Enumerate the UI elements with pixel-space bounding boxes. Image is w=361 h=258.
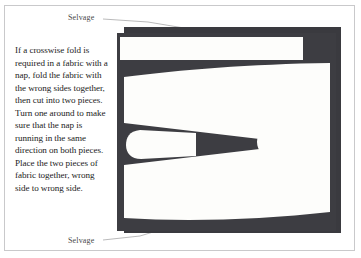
selvage-top-label: Selvage: [68, 13, 94, 22]
instruction-caption: If a crosswise fold is required in a fab…: [15, 44, 111, 195]
figure-page: If a crosswise fold is required in a fab…: [0, 0, 361, 258]
selvage-bottom-label: Selvage: [68, 236, 94, 245]
left-bulb-piece: [126, 130, 196, 159]
top-pattern-strip: [120, 37, 303, 60]
